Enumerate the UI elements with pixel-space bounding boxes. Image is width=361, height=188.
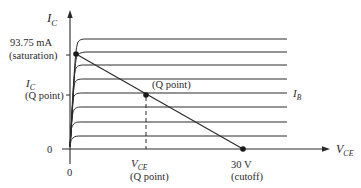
ic-q-note: (Q point) — [25, 90, 64, 102]
saturation-note: (saturation) — [9, 50, 58, 62]
dc-load-line — [76, 54, 243, 149]
q-point-icon — [143, 92, 149, 98]
cutoff-value: 30 V — [231, 159, 252, 170]
q-point-label: (Q point) — [152, 79, 191, 91]
y-axis-arrow-icon — [67, 10, 72, 18]
ib-curve-family — [70, 39, 287, 147]
y-axis-label: IC — [46, 10, 58, 28]
cutoff-note: (cutoff) — [231, 171, 263, 183]
saturation-value: 93.75 mA — [10, 37, 52, 48]
characteristic-diagram: IC 93.75 mA (saturation) IC (Q point) (Q… — [0, 0, 361, 188]
origin-y-zero: 0 — [47, 144, 52, 155]
ib-curve — [70, 136, 287, 147]
ib-family-label: IB — [292, 87, 302, 102]
saturation-point-icon — [73, 51, 79, 57]
ib-curve — [70, 107, 287, 147]
axes — [62, 10, 330, 164]
x-axis-arrow-icon — [322, 146, 330, 151]
vce-q-label: VCE — [131, 157, 148, 172]
origin-x-zero: 0 — [67, 167, 72, 178]
vce-q-note: (Q point) — [130, 171, 169, 183]
ib-curve — [70, 122, 287, 147]
ib-curve — [70, 65, 287, 147]
cutoff-point-icon — [240, 146, 246, 152]
ib-curve — [70, 93, 287, 147]
x-axis-label: VCE — [336, 142, 354, 158]
ib-curve — [70, 52, 287, 147]
